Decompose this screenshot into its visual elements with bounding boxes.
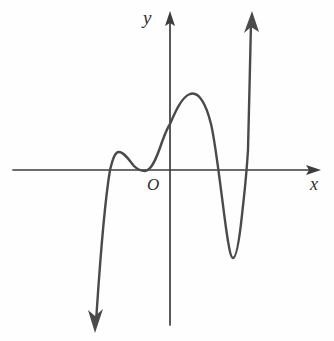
y-axis-label: y	[143, 8, 151, 27]
graph-figure: y x O	[0, 0, 334, 341]
x-axis	[13, 165, 321, 175]
coordinate-plane-svg	[0, 0, 334, 341]
curve-path	[96, 22, 251, 322]
function-curve	[88, 11, 259, 333]
origin-label: O	[147, 176, 159, 193]
x-axis-label: x	[310, 175, 318, 193]
y-axis	[165, 11, 175, 325]
